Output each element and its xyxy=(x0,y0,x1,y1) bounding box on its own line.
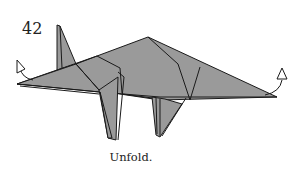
body xyxy=(17,37,277,100)
origami-diagram xyxy=(0,0,299,169)
step-caption: Unfold. xyxy=(0,150,262,164)
unfold-arrow-right-icon xyxy=(265,68,287,95)
unfold-arrow-left-icon xyxy=(17,60,33,80)
